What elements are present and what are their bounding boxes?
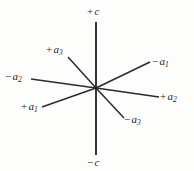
axis-label-subscript: 2 <box>18 75 22 84</box>
axis-label-sign: + <box>160 90 166 102</box>
axis-line-a3-negative <box>96 88 124 118</box>
axis-line-a2-positive <box>96 88 159 97</box>
axis-label-sign: − <box>87 156 93 168</box>
axis-label-a1-negative: −a1 <box>152 56 169 67</box>
axis-label-a3-negative: −a3 <box>124 114 141 125</box>
axis-label-subscript: 3 <box>137 118 141 127</box>
axis-line-a1-positive <box>42 88 96 107</box>
axis-label-symbol: c <box>94 5 99 17</box>
axis-line-a2-negative <box>31 79 96 88</box>
axis-label-a2-positive: +a2 <box>160 91 177 102</box>
axis-label-symbol: c <box>94 156 99 168</box>
axis-label-subscript: 3 <box>59 48 63 57</box>
axis-line-a3-positive <box>68 57 96 88</box>
axis-label-a3-positive: +a3 <box>46 44 63 55</box>
axis-label-sign: + <box>87 5 93 17</box>
axis-lines <box>31 22 159 155</box>
axis-label-sign: + <box>46 43 52 55</box>
axis-label-sign: − <box>5 70 11 82</box>
crystal-axes-figure: +c −c +a1 −a1 +a2 −a2 +a3 −a3 <box>0 0 194 171</box>
axis-label-c-positive: +c <box>87 6 100 17</box>
axis-label-c-negative: −c <box>87 157 100 168</box>
axis-label-a2-negative: −a2 <box>5 71 22 82</box>
axis-label-subscript: 2 <box>173 95 177 104</box>
axis-label-sign: − <box>152 55 158 67</box>
axis-line-a1-negative <box>96 62 150 88</box>
axis-label-sign: − <box>124 113 130 125</box>
axis-label-subscript: 1 <box>34 105 38 114</box>
axis-label-a1-positive: +a1 <box>21 101 38 112</box>
axis-label-subscript: 1 <box>165 60 169 69</box>
axis-label-sign: + <box>21 100 27 112</box>
axes-line-group <box>0 0 194 171</box>
